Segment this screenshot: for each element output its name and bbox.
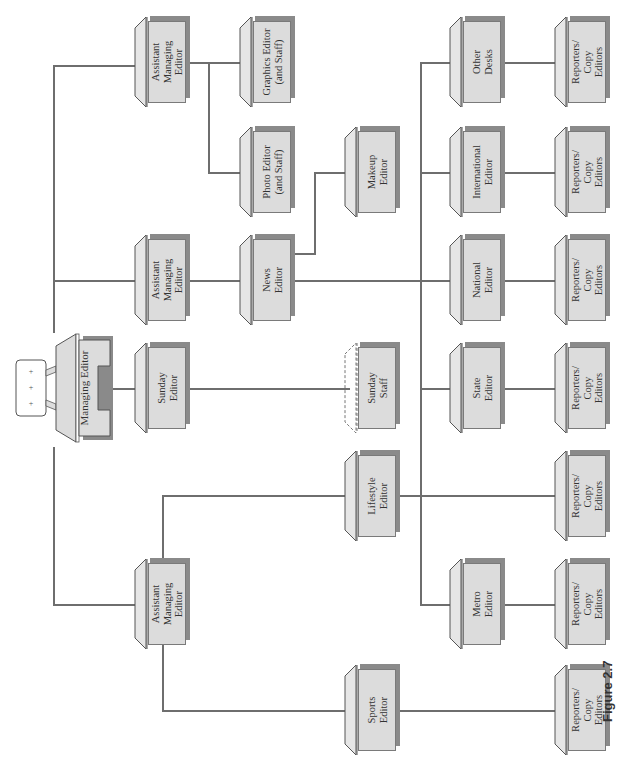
connector <box>395 710 565 712</box>
node-news-editor: News Editor <box>239 234 295 326</box>
connector <box>53 447 55 605</box>
node-lifestyle-editor: Lifestyle Editor <box>344 450 400 542</box>
connector <box>208 62 210 174</box>
node-graphics-editor: Graphics Editor (and Staff) <box>239 16 295 108</box>
node-sunday-editor: Sunday Editor <box>134 342 190 434</box>
connector <box>186 388 350 390</box>
figure-caption: Figure 2.7 <box>600 661 615 722</box>
connector <box>53 65 146 67</box>
connector <box>162 710 355 712</box>
node-assistant-managing-editor-bottom: Assistant Managing Editor <box>134 558 190 650</box>
connector <box>162 645 164 711</box>
connector <box>162 495 355 497</box>
node-reporters-metro: Reporters/ Copy Editors <box>554 558 610 650</box>
connector <box>53 604 146 606</box>
node-assistant-managing-editor-top: Assistant Managing Editor <box>134 16 190 108</box>
desk-with-typewriter-icon: + + + <box>14 330 114 446</box>
node-other-desks: Other Desks <box>449 16 505 108</box>
managing-editor-node: + + + Managing Editor <box>14 330 114 446</box>
node-makeup-editor: Makeup Editor <box>344 126 400 218</box>
node-reporters-state: Reporters/ Copy Editors <box>554 342 610 434</box>
node-photo-editor: Photo Editor (and Staff) <box>239 126 295 218</box>
connector <box>420 62 422 606</box>
node-state-editor: State Editor <box>449 342 505 434</box>
connector <box>395 495 565 497</box>
connector <box>314 172 316 255</box>
node-reporters-international: Reporters/ Copy Editors <box>554 126 610 218</box>
svg-text:+: + <box>29 383 34 392</box>
node-assistant-managing-editor-middle: Assistant Managing Editor <box>134 234 190 326</box>
connector <box>162 495 164 560</box>
connector <box>290 280 460 282</box>
svg-text:+: + <box>29 367 34 376</box>
svg-text:+: + <box>29 399 34 408</box>
node-reporters-lifestyle: Reporters/ Copy Editors <box>554 450 610 542</box>
node-reporters-national: Reporters/ Copy Editors <box>554 234 610 326</box>
node-national-editor: National Editor <box>449 234 505 326</box>
node-sunday-staff: Sunday Staff <box>344 342 400 434</box>
node-metro-editor: Metro Editor <box>449 558 505 650</box>
managing-editor-label: Managing Editor <box>78 351 90 426</box>
node-reporters-other-desks: Reporters/ Copy Editors <box>554 16 610 108</box>
node-international-editor: International Editor <box>449 126 505 218</box>
connector <box>53 280 146 282</box>
connector <box>53 65 55 333</box>
node-sports-editor: Sports Editor <box>344 664 400 756</box>
